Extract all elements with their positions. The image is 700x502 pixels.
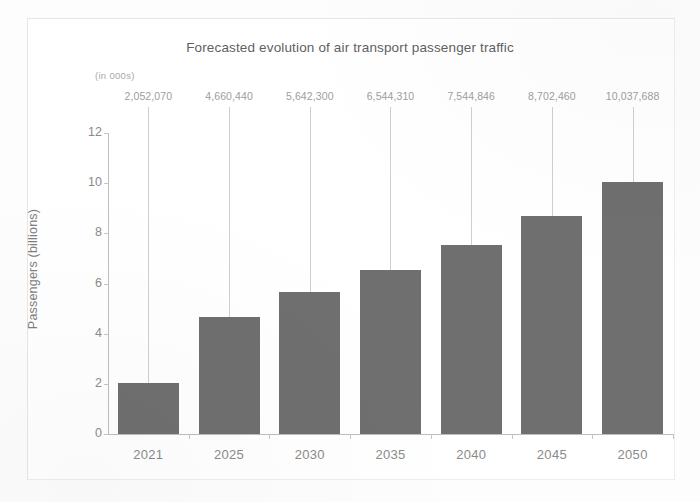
y-axis-tick-label: 2 [76, 376, 102, 390]
bar [602, 182, 663, 434]
chart-figure: Forecasted evolution of air transport pa… [0, 0, 700, 502]
data-label: 5,642,300 [269, 90, 350, 102]
x-axis-tick-mark [431, 434, 432, 439]
x-axis-tick-label: 2035 [350, 447, 431, 462]
leader-line [229, 107, 230, 317]
leader-line [633, 107, 634, 182]
y-axis-tick-label: 6 [76, 276, 102, 290]
x-axis-tick-mark [673, 434, 674, 439]
data-label: 7,544,846 [431, 90, 512, 102]
y-axis-tick-mark [104, 183, 109, 184]
y-axis-title: Passengers (billions) [26, 174, 40, 364]
bar [360, 270, 421, 434]
leader-line [552, 107, 553, 216]
x-axis-tick-mark [350, 434, 351, 439]
y-axis-tick-label: 12 [76, 125, 102, 139]
data-label: 2,052,070 [108, 90, 189, 102]
y-axis-tick-labels: 024681012 [72, 0, 102, 502]
x-axis-tick-mark [269, 434, 270, 439]
bar [279, 292, 340, 434]
y-axis-tick-label: 10 [76, 175, 102, 189]
x-axis-tick-mark [189, 434, 190, 439]
y-axis-tick-mark [104, 334, 109, 335]
y-axis-tick-mark [104, 233, 109, 234]
x-axis-tick-label: 2050 [592, 447, 673, 462]
data-label: 6,544,310 [350, 90, 431, 102]
x-axis-tick-label: 2021 [108, 447, 189, 462]
x-axis-tick-label: 2030 [269, 447, 350, 462]
x-axis-tick-label: 2045 [512, 447, 593, 462]
x-axis-line [108, 434, 673, 435]
y-axis-tick-label: 8 [76, 225, 102, 239]
leader-line [310, 107, 311, 292]
y-axis-tick-mark [104, 384, 109, 385]
data-label: 4,660,440 [189, 90, 270, 102]
x-axis-tick-mark [592, 434, 593, 439]
leader-line [471, 107, 472, 245]
x-axis-tick-label: 2025 [189, 447, 270, 462]
x-axis-tick-mark [512, 434, 513, 439]
x-axis-tick-label: 2040 [431, 447, 512, 462]
leader-line [148, 107, 149, 383]
bar [199, 317, 260, 434]
data-label: 10,037,688 [592, 90, 673, 102]
y-axis-tick-mark [104, 133, 109, 134]
y-axis-tick-mark [104, 434, 109, 435]
leader-line [390, 107, 391, 270]
bar [441, 245, 502, 434]
y-axis-tick-label: 4 [76, 326, 102, 340]
data-label: 8,702,460 [512, 90, 593, 102]
y-axis-tick-label: 0 [76, 426, 102, 440]
bar [118, 383, 179, 434]
plot-area: Passengers (billions) 024681012 2,052,07… [0, 0, 700, 502]
bar [521, 216, 582, 434]
y-axis-tick-mark [104, 284, 109, 285]
